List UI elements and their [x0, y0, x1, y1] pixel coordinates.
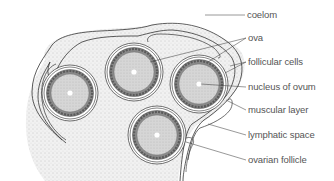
leader-ovarian-follicle — [186, 142, 246, 160]
leader-lymphatic — [208, 124, 246, 135]
nucleus — [131, 69, 136, 74]
label-follicular-cells: follicular cells — [248, 57, 303, 67]
ovarian-follicle-1 — [42, 65, 98, 121]
nucleus — [67, 90, 72, 95]
label-muscular-layer: muscular layer — [248, 105, 308, 115]
label-ovarian-follicle: ovarian follicle — [248, 155, 307, 165]
label-lymphatic-space: lymphatic space — [248, 130, 315, 140]
leader-muscular — [226, 100, 246, 110]
ovarian-follicle-2 — [105, 43, 163, 101]
nucleus — [196, 81, 201, 86]
nucleus — [154, 132, 159, 137]
label-nucleus-of-ovum: nucleus of ovum — [248, 82, 316, 92]
label-coelom: coelom — [247, 10, 277, 20]
label-ova: ova — [248, 33, 263, 43]
ovarian-follicle-4 — [128, 106, 186, 164]
ovarian-follicle-3 — [170, 55, 228, 113]
